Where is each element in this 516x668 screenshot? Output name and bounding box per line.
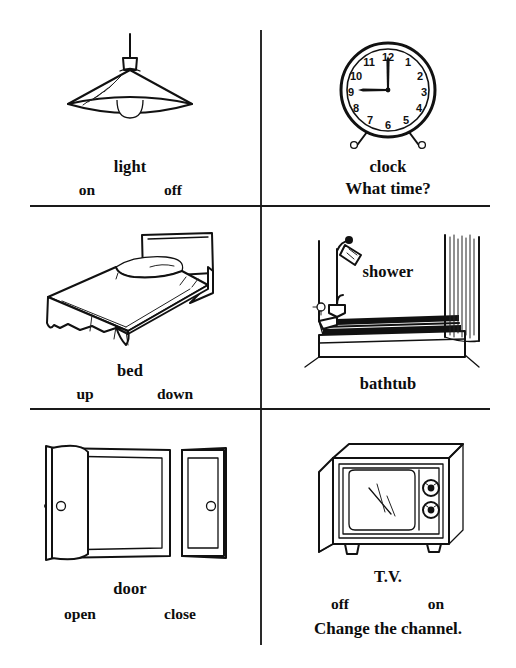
television-illustration <box>260 438 516 560</box>
option-door-close: close <box>130 606 230 622</box>
doors-illustration <box>0 438 260 563</box>
cell-clock: 12 1 2 3 4 5 6 7 8 9 10 11 clock Wh <box>260 0 516 205</box>
label-light-options: on off <box>0 182 260 198</box>
word-shower: shower <box>362 262 413 281</box>
svg-text:5: 5 <box>403 114 409 126</box>
label-bed-options: up down <box>0 386 260 402</box>
cell-light: light on off <box>0 0 260 205</box>
option-tv-on: on <box>388 596 484 612</box>
label-tv-phrase: Change the channel. <box>260 620 516 638</box>
label-bed-main: bed <box>0 362 260 379</box>
svg-text:4: 4 <box>416 102 423 114</box>
doors-icon <box>30 438 230 563</box>
svg-text:11: 11 <box>363 56 375 68</box>
option-tv-off: off <box>292 596 388 612</box>
television-icon <box>303 438 473 560</box>
svg-text:6: 6 <box>385 119 391 131</box>
bathtub-shower-icon <box>293 225 483 367</box>
label-tv-main: T.V. <box>260 568 516 585</box>
label-shower-inline: shower <box>260 263 516 280</box>
svg-text:1: 1 <box>405 56 411 68</box>
phrase-what-time: What time? <box>345 179 430 198</box>
word-light: light <box>114 157 147 176</box>
option-light-on: on <box>44 182 130 198</box>
label-clock-main: clock <box>260 158 516 175</box>
option-bed-down: down <box>130 386 220 402</box>
svg-text:8: 8 <box>353 102 359 114</box>
bathtub-illustration <box>260 225 516 367</box>
option-light-off: off <box>130 182 216 198</box>
bed-illustration <box>0 227 260 347</box>
svg-text:9: 9 <box>348 86 354 98</box>
svg-text:3: 3 <box>421 86 427 98</box>
hanging-lamp-illustration <box>0 30 260 125</box>
label-clock-phrase: What time? <box>260 180 516 198</box>
svg-text:10: 10 <box>350 70 362 82</box>
label-door-main: door <box>0 580 260 597</box>
cell-tv: T.V. off on Change the channel. <box>260 408 516 668</box>
cell-bed: bed up down <box>0 205 260 408</box>
alarm-clock-illustration: 12 1 2 3 4 5 6 7 8 9 10 11 <box>260 38 516 150</box>
phrase-change-channel: Change the channel. <box>314 619 462 638</box>
alarm-clock-icon: 12 1 2 3 4 5 6 7 8 9 10 11 <box>323 38 453 150</box>
word-bathtub: bathtub <box>360 374 417 393</box>
word-door: door <box>113 579 146 598</box>
word-bed: bed <box>117 361 143 380</box>
label-light-main: light <box>0 158 260 175</box>
word-tv: T.V. <box>374 567 402 586</box>
cell-door: door open close <box>0 408 260 668</box>
cell-bathtub: shower bathtub <box>260 205 516 408</box>
option-bed-up: up <box>40 386 130 402</box>
option-door-open: open <box>30 606 130 622</box>
bed-icon <box>30 227 230 347</box>
label-door-options: open close <box>0 606 260 622</box>
hanging-lamp-icon <box>50 30 210 125</box>
label-bathtub-main: bathtub <box>260 375 516 392</box>
worksheet-page: light on off 12 1 2 3 <box>0 0 516 668</box>
svg-text:2: 2 <box>417 70 423 82</box>
label-tv-options: off on <box>260 596 516 612</box>
word-clock: clock <box>369 157 406 176</box>
svg-text:7: 7 <box>367 114 373 126</box>
